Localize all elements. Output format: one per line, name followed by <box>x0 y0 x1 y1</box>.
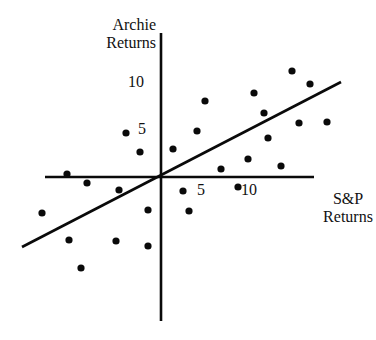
data-point <box>193 127 200 134</box>
data-point <box>277 162 284 169</box>
data-point <box>112 237 119 244</box>
y-axis-label-line-1: Archie <box>84 16 156 34</box>
y-axis-label: Archie Returns <box>84 16 156 52</box>
data-point <box>244 155 251 162</box>
scatter-chart: Archie Returns S&P Returns 5 10 5 10 <box>0 0 376 340</box>
regression-line <box>22 82 341 247</box>
y-tick-label-10: 10 <box>128 73 144 91</box>
data-point <box>83 179 90 186</box>
data-point <box>217 165 224 172</box>
data-point <box>136 148 143 155</box>
data-point <box>65 236 72 243</box>
data-point <box>144 206 151 213</box>
data-point <box>260 109 267 116</box>
data-point <box>288 67 295 74</box>
data-point <box>306 80 313 87</box>
plot-area <box>0 0 376 340</box>
data-point <box>169 145 176 152</box>
data-point <box>250 89 257 96</box>
data-point <box>38 209 45 216</box>
x-tick-label-10: 10 <box>241 181 257 199</box>
y-axis-label-line-2: Returns <box>84 34 156 52</box>
data-point <box>295 119 302 126</box>
x-axis-label-line-2: Returns <box>318 208 376 226</box>
x-axis-label: S&P Returns <box>318 190 376 226</box>
data-point <box>77 264 84 271</box>
data-point <box>144 242 151 249</box>
y-tick-label-5: 5 <box>138 120 146 138</box>
data-point <box>179 187 186 194</box>
data-point <box>323 118 330 125</box>
data-point <box>115 186 122 193</box>
x-axis-label-line-1: S&P <box>318 190 376 208</box>
x-tick-label-5: 5 <box>197 181 205 199</box>
data-point <box>185 207 192 214</box>
data-point <box>63 170 70 177</box>
data-point <box>122 129 129 136</box>
data-point <box>201 97 208 104</box>
data-point <box>264 134 271 141</box>
